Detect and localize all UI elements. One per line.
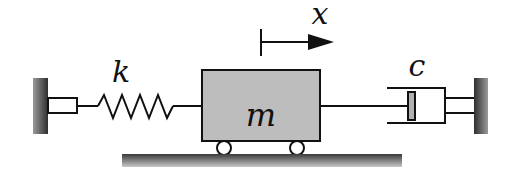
left-bracket	[48, 98, 77, 113]
dashpot-piston	[408, 92, 415, 120]
displacement-label: x	[312, 0, 329, 31]
spring	[98, 95, 173, 118]
mass-spring-damper-diagram: k m x c	[0, 0, 517, 180]
wheel-left	[217, 141, 231, 155]
damping-label: c	[409, 48, 426, 83]
ground	[122, 154, 402, 167]
right-wall	[474, 78, 488, 134]
displacement-arrow-head	[308, 34, 334, 50]
left-wall	[33, 78, 48, 134]
wheel-right	[290, 141, 304, 155]
mass-label: m	[246, 96, 276, 134]
spring-constant-label: k	[112, 54, 130, 89]
